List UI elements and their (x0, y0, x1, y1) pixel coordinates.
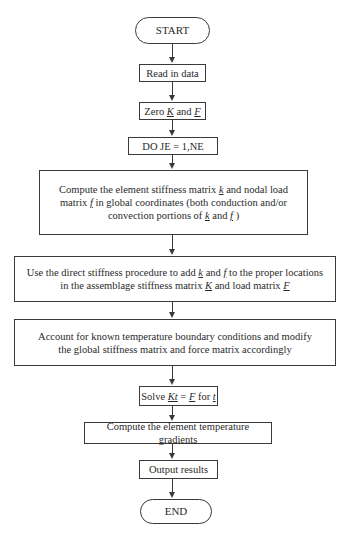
assemble-step: Use the direct stiffness procedure to ad… (14, 256, 336, 302)
solve-step: Solve Kt = F for t (139, 386, 218, 406)
arrow-icon (169, 492, 175, 498)
output-label: Output results (149, 463, 208, 476)
solve-label: Solve Kt = F for t (141, 390, 215, 403)
read-data-label: Read in data (146, 67, 198, 80)
arrow-icon (169, 130, 175, 136)
loop-step: DO JE = 1,NE (128, 137, 218, 155)
arrow-icon (169, 249, 175, 255)
gradients-step: Compute the element temperature gradient… (84, 422, 272, 444)
arrow-icon (169, 57, 175, 63)
connector (172, 82, 173, 96)
boundary-conditions-step: Account for known temperature boundary c… (14, 319, 336, 366)
gradients-label: Compute the element temperature gradient… (91, 420, 265, 446)
arrow-icon (169, 312, 175, 318)
zero-step: Zero K and F (139, 102, 206, 120)
compute-element-matrices-label: Compute the element stiffness matrix k a… (54, 183, 293, 222)
loop-label: DO JE = 1,NE (142, 140, 203, 153)
arrow-icon (169, 163, 175, 169)
assemble-label: Use the direct stiffness procedure to ad… (25, 266, 325, 292)
connector (172, 44, 173, 58)
arrow-icon (169, 453, 175, 459)
end-label: END (165, 505, 188, 518)
connector (172, 479, 173, 493)
arrow-icon (169, 379, 175, 385)
arrow-icon (169, 95, 175, 101)
boundary-conditions-label: Account for known temperature boundary c… (33, 330, 317, 356)
output-step: Output results (139, 460, 218, 479)
zero-label: Zero K and F (144, 105, 200, 118)
start-label: START (156, 24, 189, 37)
connector (172, 235, 173, 250)
read-data-step: Read in data (139, 64, 206, 82)
compute-element-matrices-step: Compute the element stiffness matrix k a… (39, 170, 308, 235)
end-terminal: END (140, 499, 212, 524)
start-terminal: START (135, 17, 210, 44)
connector (172, 366, 173, 380)
